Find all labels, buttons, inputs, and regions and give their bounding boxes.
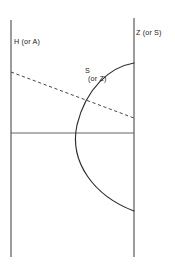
label-h-or-a: H (or A) [14, 38, 40, 46]
label-s-or-z-sub: (or Z) [83, 75, 106, 83]
dashed-diagonal-line [11, 72, 134, 118]
curved-arc [76, 63, 134, 211]
label-s-or-z: S (or Z) [83, 67, 106, 84]
diagram-canvas: H (or A) Z (or S) S (or Z) [0, 0, 175, 270]
label-z-or-s: Z (or S) [136, 29, 162, 37]
